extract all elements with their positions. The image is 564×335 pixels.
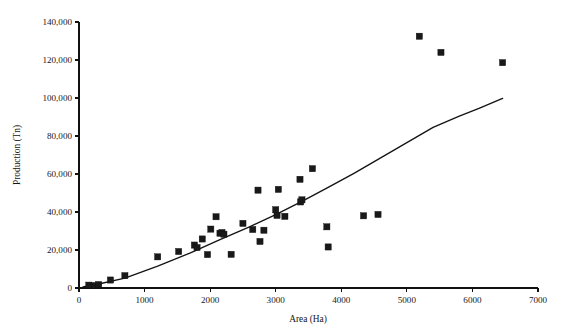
y-tick-label: 40,000 (47, 207, 72, 217)
data-point-marker (309, 166, 315, 172)
x-tick-label: 6000 (463, 295, 482, 305)
data-point-marker (274, 212, 280, 218)
scatter-chart: 020,00040,00060,00080,000100,000120,0001… (0, 0, 564, 335)
y-tick-label: 100,000 (42, 93, 72, 103)
data-point-marker (499, 60, 505, 66)
x-axis (79, 288, 538, 292)
data-point-marker (255, 187, 261, 193)
data-point-marker (122, 273, 128, 279)
x-tick-label: 2000 (201, 295, 220, 305)
data-point-marker (297, 176, 303, 182)
y-axis (75, 22, 79, 288)
data-points (86, 33, 506, 288)
data-point-marker (375, 211, 381, 217)
trend-line-path (83, 98, 503, 286)
data-point-marker (275, 186, 281, 192)
data-point-marker (176, 248, 182, 254)
data-point-marker (438, 49, 444, 55)
x-tick-label: 3000 (267, 295, 286, 305)
data-point-marker (155, 254, 161, 260)
data-point-marker (240, 220, 246, 226)
data-point-marker (257, 238, 263, 244)
y-tick-label: 60,000 (47, 169, 72, 179)
data-point-marker (208, 226, 214, 232)
x-tick-label: 5000 (398, 295, 417, 305)
data-point-marker (204, 251, 210, 257)
y-tick-label: 20,000 (47, 245, 72, 255)
data-point-marker (213, 214, 219, 220)
data-point-marker (194, 244, 200, 250)
data-point-marker (324, 224, 330, 230)
plot-area: 020,00040,00060,00080,000100,000120,0001… (0, 0, 564, 335)
data-point-marker (199, 236, 205, 242)
trend-line (83, 98, 503, 286)
data-point-marker (360, 213, 366, 219)
y-tick-label: 0 (67, 283, 72, 293)
data-point-marker (299, 197, 305, 203)
y-tick-label: 80,000 (47, 131, 72, 141)
tick-labels: 020,00040,00060,00080,000100,000120,0001… (42, 17, 547, 304)
data-point-marker (273, 207, 279, 213)
y-tick-label: 120,000 (42, 55, 72, 65)
y-tick-label: 140,000 (42, 17, 72, 27)
data-point-marker (416, 33, 422, 39)
data-point-marker (261, 227, 267, 233)
x-tick-label: 4000 (332, 295, 351, 305)
y-axis-title: Production (Tn) (12, 125, 23, 185)
data-point-marker (96, 281, 102, 287)
data-point-marker (221, 231, 227, 237)
x-tick-label: 1000 (135, 295, 154, 305)
x-axis-title: Area (Ha) (289, 314, 327, 325)
data-point-marker (86, 282, 92, 288)
x-tick-label: 7000 (529, 295, 548, 305)
x-tick-label: 0 (77, 295, 82, 305)
data-point-marker (250, 226, 256, 232)
data-point-marker (107, 277, 113, 283)
data-point-marker (325, 244, 331, 250)
data-point-marker (228, 251, 234, 257)
data-point-marker (282, 213, 288, 219)
